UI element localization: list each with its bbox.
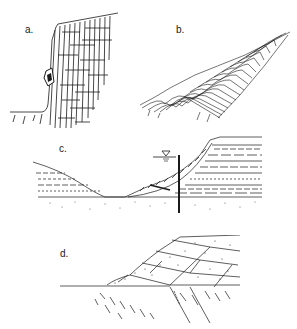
bent-strata-drawing [140,0,297,135]
water-table-icon [153,151,176,161]
jointed-cliff-drawing [0,0,150,135]
panel-d: d. [0,235,297,329]
bedded-slope-drawing [0,235,297,329]
panel-a: a. [0,0,150,135]
panel-c: c. [0,135,297,235]
valley-landslide-drawing [0,135,297,235]
falling-block-icon [44,68,54,86]
panel-b: b. [140,0,297,135]
ground-stipple [50,202,256,210]
